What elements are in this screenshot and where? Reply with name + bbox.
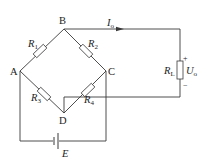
node-label-a: A (10, 66, 18, 77)
label-r4: R4 (83, 94, 94, 107)
label-output-voltage: Uo (186, 65, 198, 78)
label-source-e: E (61, 148, 69, 159)
label-r2: R2 (87, 38, 98, 51)
label-output-current: Io (106, 17, 115, 30)
label-rl: RL (163, 65, 175, 78)
resistor-rl (177, 61, 183, 79)
output-loop-wires (64, 29, 180, 113)
label-minus: − (183, 81, 188, 90)
label-r1: R1 (27, 38, 38, 51)
node-label-c: C (108, 66, 115, 77)
node-label-b: B (59, 15, 66, 26)
node-label-d: D (59, 115, 67, 126)
battery-icon (54, 133, 58, 149)
bridge-circuit-diagram: B A C D R1 R2 R3 R4 RL Io + Uo − E (0, 0, 206, 161)
label-plus: + (183, 54, 188, 63)
current-arrow-icon (116, 27, 124, 31)
